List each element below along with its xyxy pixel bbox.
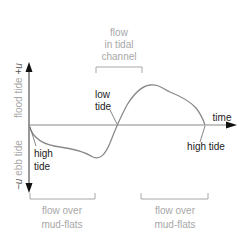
bottom-left-bracket: [30, 193, 95, 199]
high-tide-left-label-line1: high: [34, 148, 53, 159]
high-tide-right-label: high tide: [187, 141, 225, 152]
top-bracket-label-line3: channel: [101, 51, 136, 62]
tidal-flow-diagram: flood tide +u −u ebb tide time high tide…: [0, 0, 252, 237]
bottom-left-bracket-label-line2: mud-flats: [41, 219, 82, 230]
high-tide-left-label-line2: tide: [34, 161, 51, 172]
top-bracket: [96, 67, 142, 73]
low-tide-leader: [110, 110, 117, 124]
bottom-right-bracket-label-line1: flow over: [155, 205, 196, 216]
y-axis-up-arrow-icon: [26, 62, 33, 72]
bottom-right-bracket-label-line2: mud-flats: [154, 219, 195, 230]
top-bracket-label-line2: in tidal: [105, 39, 134, 50]
y-negative-label: −u ebb tide: [13, 140, 24, 190]
high-tide-right-leader: [200, 126, 205, 142]
y-positive-label: flood tide +u: [13, 63, 24, 118]
top-bracket-label-line1: flow: [110, 27, 129, 38]
x-axis-label: time: [213, 112, 232, 123]
bottom-left-bracket-label-line1: flow over: [42, 205, 83, 216]
y-axis-down-arrow-icon: [26, 183, 33, 193]
low-tide-label-line1: low: [95, 89, 111, 100]
low-tide-label-line2: tide: [95, 101, 112, 112]
bottom-right-bracket: [141, 193, 208, 199]
velocity-curve: [29, 85, 205, 158]
